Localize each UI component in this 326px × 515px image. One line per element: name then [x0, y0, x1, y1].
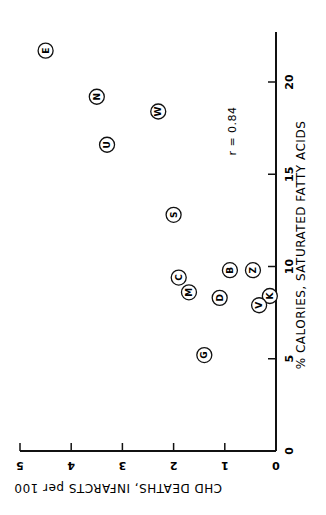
x-tick: 20	[268, 74, 296, 90]
svg-text:V: V	[254, 302, 264, 309]
data-point-e: E	[38, 43, 53, 58]
data-point-b: B	[222, 263, 237, 278]
svg-text:0: 0	[283, 447, 296, 455]
data-point-s: S	[166, 207, 181, 222]
y-tick: 3	[119, 443, 127, 472]
svg-text:3: 3	[119, 459, 127, 472]
data-point-u: U	[100, 137, 115, 152]
svg-text:W: W	[153, 106, 163, 116]
svg-text:U: U	[102, 141, 112, 148]
svg-text:Z: Z	[248, 266, 258, 273]
svg-text:K: K	[265, 292, 275, 300]
x-tick: 15	[268, 167, 296, 182]
data-point-n: N	[89, 89, 104, 104]
data-points: ENWUSCMBZDKVG	[38, 43, 277, 362]
data-point-z: Z	[245, 263, 260, 278]
svg-text:G: G	[199, 351, 209, 358]
data-point-g: G	[197, 348, 212, 363]
data-point-w: W	[151, 104, 166, 119]
svg-text:2: 2	[170, 459, 178, 472]
svg-text:0: 0	[272, 459, 280, 472]
svg-text:1: 1	[221, 459, 229, 472]
svg-text:20: 20	[283, 74, 296, 90]
svg-text:B: B	[225, 267, 235, 274]
data-point-m: M	[181, 285, 196, 300]
svg-text:N: N	[92, 93, 102, 101]
svg-text:M: M	[184, 288, 194, 297]
scatter-chart: 05101520012345 ENWUSCMBZDKVG % CALORIES,…	[0, 0, 326, 515]
x-tick: 10	[268, 259, 296, 275]
x-tick: 0	[283, 447, 296, 455]
data-point-v: V	[252, 298, 267, 313]
y-axis-label: CHD DEATHS, INFARCTS per 100	[14, 481, 222, 495]
y-tick: 4	[67, 443, 75, 472]
correlation-annotation: r = 0.84	[226, 106, 239, 155]
x-axis-label: % CALORIES, SATURATED FATTY ACIDS	[294, 121, 308, 369]
y-tick: 1	[221, 443, 229, 472]
data-point-c: C	[171, 270, 186, 285]
y-tick: 0	[272, 459, 280, 472]
svg-text:E: E	[41, 48, 51, 54]
svg-text:C: C	[174, 274, 184, 281]
svg-text:4: 4	[67, 459, 75, 472]
svg-text:5: 5	[16, 459, 24, 472]
svg-text:S: S	[169, 212, 179, 218]
svg-text:D: D	[215, 294, 225, 301]
y-tick: 2	[170, 443, 178, 472]
y-tick: 5	[16, 443, 24, 472]
x-tick: 5	[268, 355, 296, 363]
data-point-d: D	[212, 290, 227, 305]
axes: 05101520012345	[16, 32, 296, 472]
